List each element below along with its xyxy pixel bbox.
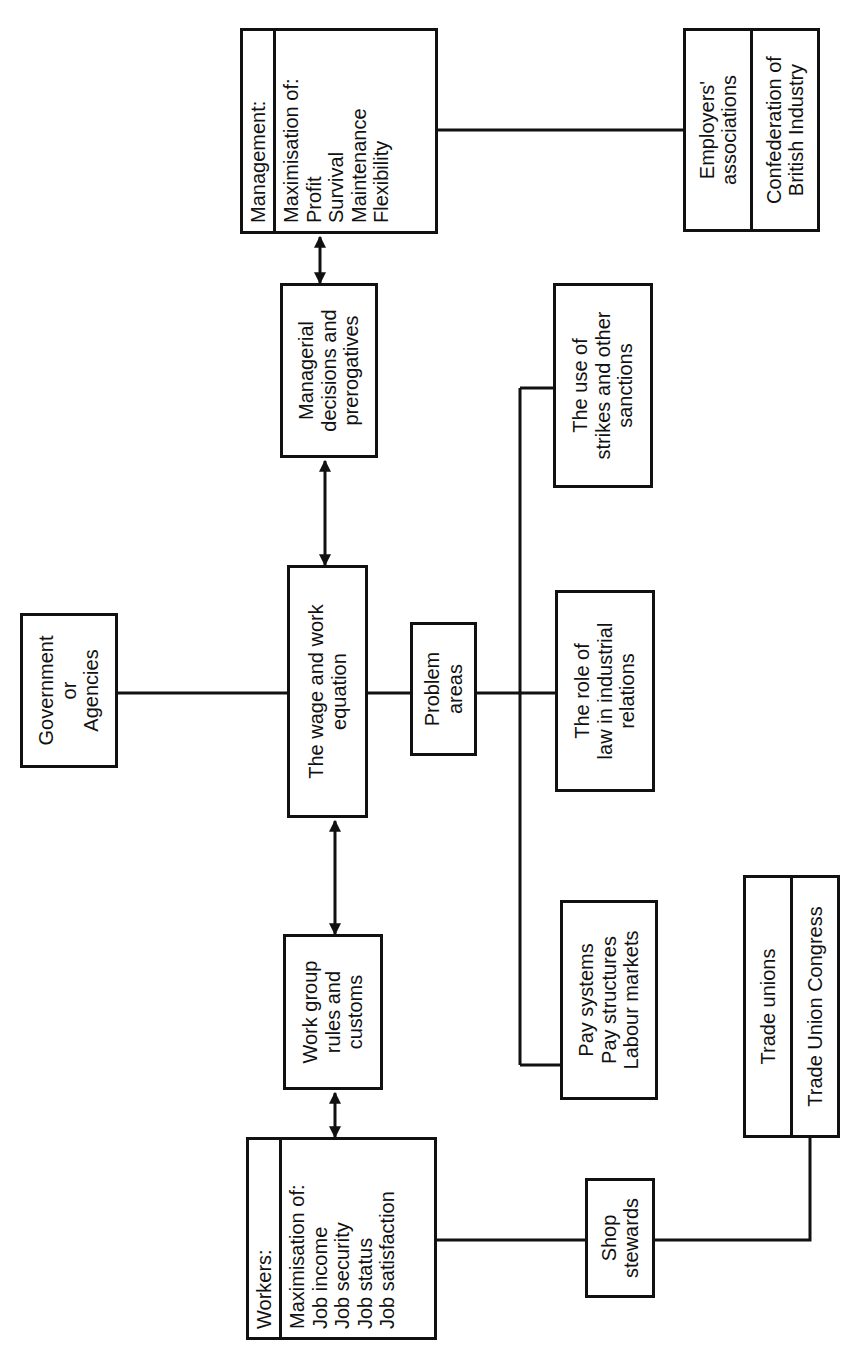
government-box: Government or Agencies — [20, 613, 118, 768]
management-goal: Flexibility — [370, 39, 392, 223]
pay-label: Pay systems — [575, 931, 597, 1070]
government-label: Agencies — [80, 635, 102, 745]
workers-goal: Job satisfaction — [376, 1148, 398, 1329]
tuc-label: Trade Union Congress — [804, 906, 826, 1106]
trade-unions-top: Trade unions — [746, 878, 790, 1135]
managerial-box: Managerial decisions and prerogatives — [280, 283, 378, 458]
law-box: The role of law in industrial relations — [555, 590, 655, 792]
strikes-label: The use of — [569, 312, 591, 460]
employers-label: associations — [718, 75, 740, 185]
law-label: law in industrial — [594, 623, 616, 760]
trade-unions-bottom: Trade Union Congress — [790, 878, 837, 1135]
line-stewards-unions — [655, 1138, 810, 1240]
strikes-label: strikes and other — [592, 312, 614, 460]
industrial-relations-diagram: Workers: Maximisation of: Job income Job… — [0, 0, 866, 1348]
workers-goals: Maximisation of: Job income Job security… — [282, 1140, 402, 1337]
managerial-label: prerogatives — [340, 309, 362, 431]
strikes-box: The use of strikes and other sanctions — [553, 283, 653, 488]
shop-stewards-label: Shop — [598, 1198, 620, 1278]
management-goal: Maintenance — [348, 39, 370, 223]
law-label: The role of — [571, 623, 593, 760]
managerial-label: Managerial — [295, 309, 317, 431]
shop-stewards-box: Shop stewards — [585, 1178, 655, 1298]
management-box: Management: Maximisation of: Profit Surv… — [240, 28, 438, 234]
cbi-label: British Industry — [785, 64, 807, 196]
management-goal: Profit — [303, 39, 325, 223]
problem-areas-label: areas — [444, 652, 466, 726]
wage-work-label: equation — [328, 604, 350, 779]
employers-top: Employers' associations — [686, 31, 750, 229]
strikes-label: sanctions — [614, 312, 636, 460]
workers-goal: Job security — [331, 1148, 353, 1329]
government-label: Government — [35, 635, 57, 745]
workers-title: Workers: — [249, 1140, 282, 1337]
work-group-label: customs — [344, 961, 366, 1064]
work-group-label: rules and — [322, 961, 344, 1064]
cbi-label: Confederation of — [763, 56, 785, 204]
management-goal: Maximisation of: — [280, 39, 302, 223]
work-group-label: Work group — [299, 961, 321, 1064]
employers-bottom: Confederation of British Industry — [750, 31, 817, 229]
pay-box: Pay systems Pay structures Labour market… — [560, 900, 658, 1100]
law-label: relations — [616, 623, 638, 760]
management-goals: Maximisation of: Profit Survival Mainten… — [276, 31, 396, 231]
problem-areas-label: Problem — [421, 652, 443, 726]
pay-label: Labour markets — [620, 931, 642, 1070]
employers-label: Employers' — [696, 81, 718, 179]
workers-goal: Job income — [309, 1148, 331, 1329]
managerial-label: decisions and — [318, 309, 340, 431]
shop-stewards-label: stewards — [620, 1198, 642, 1278]
trade-unions-label: Trade unions — [757, 949, 779, 1065]
workers-box: Workers: Maximisation of: Job income Job… — [246, 1137, 437, 1340]
workers-goal: Maximisation of: — [286, 1148, 308, 1329]
government-label: or — [58, 635, 80, 745]
problem-areas-box: Problem areas — [410, 622, 477, 756]
wage-work-box: The wage and work equation — [287, 565, 368, 818]
management-goal: Survival — [325, 39, 347, 223]
workers-goal: Job status — [354, 1148, 376, 1329]
trade-unions-box: Trade unions Trade Union Congress — [743, 875, 840, 1138]
work-group-box: Work group rules and customs — [283, 934, 383, 1090]
management-title: Management: — [243, 31, 276, 231]
wage-work-label: The wage and work — [305, 604, 327, 779]
pay-label: Pay structures — [598, 931, 620, 1070]
employers-box: Employers' associations Confederation of… — [683, 28, 820, 232]
